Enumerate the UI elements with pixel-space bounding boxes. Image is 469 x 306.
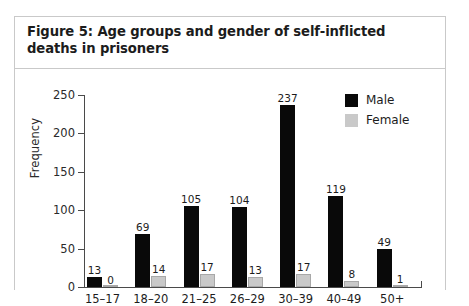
figure-title: Figure 5: Age groups and gender of self-… bbox=[27, 24, 433, 58]
bar-value-female: 0 bbox=[97, 274, 124, 286]
figure-container: Figure 5: Age groups and gender of self-… bbox=[14, 16, 446, 290]
bar-value-male: 237 bbox=[274, 92, 301, 104]
bar-value-female: 13 bbox=[242, 264, 269, 276]
bar-female bbox=[296, 274, 311, 287]
x-axis-group-label: 40–49 bbox=[319, 292, 368, 306]
bar-female bbox=[393, 285, 408, 287]
bar-female bbox=[151, 276, 166, 287]
x-axis-group-label: 26–29 bbox=[223, 292, 272, 306]
bar-male bbox=[280, 105, 295, 287]
x-axis-group-label: 15–17 bbox=[78, 292, 127, 306]
x-axis-group-label: 21–25 bbox=[175, 292, 224, 306]
bar-male bbox=[184, 206, 199, 287]
bar-value-male: 119 bbox=[322, 183, 349, 195]
bar-male bbox=[135, 234, 150, 287]
legend-label-male: Male bbox=[366, 93, 394, 107]
bar-value-female: 17 bbox=[290, 261, 317, 273]
bar-value-male: 69 bbox=[129, 221, 156, 233]
bar-value-female: 1 bbox=[387, 273, 414, 285]
legend-item-male: Male bbox=[345, 93, 409, 107]
legend-swatch-female-icon bbox=[345, 114, 358, 127]
legend-item-female: Female bbox=[345, 113, 409, 127]
bar-value-male: 105 bbox=[178, 193, 205, 205]
figure-title-bar: Figure 5: Age groups and gender of self-… bbox=[15, 17, 445, 69]
bar-female bbox=[200, 274, 215, 287]
bar-value-female: 14 bbox=[145, 263, 172, 275]
bar-value-female: 17 bbox=[194, 261, 221, 273]
x-axis-group-label: 30–39 bbox=[271, 292, 320, 306]
bar-value-male: 49 bbox=[371, 236, 398, 248]
bar-value-male: 104 bbox=[226, 194, 253, 206]
x-axis-line bbox=[84, 287, 422, 288]
bar-value-female: 8 bbox=[338, 268, 365, 280]
legend-swatch-male-icon bbox=[345, 94, 358, 107]
plot-region: Frequency 050100150200250 13069141051710… bbox=[15, 69, 447, 291]
x-axis-group-label: 50+ bbox=[368, 292, 417, 306]
x-axis-group-label: 18–20 bbox=[126, 292, 175, 306]
bar-female bbox=[248, 277, 263, 287]
y-axis-tick bbox=[78, 287, 84, 288]
legend-label-female: Female bbox=[366, 113, 409, 127]
bar-female bbox=[344, 281, 359, 287]
chart-legend: Male Female bbox=[345, 93, 409, 133]
